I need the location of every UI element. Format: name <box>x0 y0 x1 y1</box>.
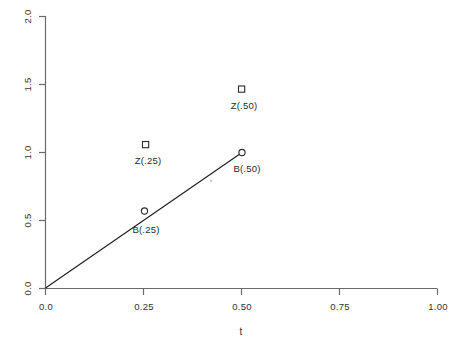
x-tick-label-1-00: 1.00 <box>422 301 454 312</box>
y-tick-label-0-0: 0.0 <box>22 276 33 302</box>
annotation-z-050: Z(.50) <box>220 100 268 111</box>
series-b-point-050 <box>239 149 245 155</box>
annotation-b-025: B(.25) <box>122 224 170 235</box>
series-b-line <box>46 153 243 289</box>
x-axis-ticks <box>46 289 438 296</box>
x-axis-title: t <box>228 326 254 337</box>
chart-container: 2.0 1.5 1.0 0.5 0.0 0.0 0.25 0.50 0.75 1… <box>0 0 468 342</box>
y-tick-label-2-0: 2.0 <box>22 4 33 30</box>
series-z-point-050 <box>239 86 245 92</box>
artifact-dot <box>210 180 213 183</box>
annotation-b-050: B(.50) <box>223 163 271 174</box>
series-z-point-025 <box>143 142 149 148</box>
x-tick-label-0-75: 0.75 <box>324 301 356 312</box>
y-tick-label-0-5: 0.5 <box>22 208 33 234</box>
y-tick-label-1-0: 1.0 <box>22 140 33 166</box>
y-axis-ticks <box>39 17 46 289</box>
y-tick-label-1-5: 1.5 <box>22 72 33 98</box>
series-b-point-025 <box>141 208 147 214</box>
x-tick-label-0-0: 0.0 <box>33 301 59 312</box>
x-tick-label-0-25: 0.25 <box>128 301 160 312</box>
annotation-z-025: Z(.25) <box>124 155 172 166</box>
x-tick-label-0-50: 0.50 <box>226 301 258 312</box>
